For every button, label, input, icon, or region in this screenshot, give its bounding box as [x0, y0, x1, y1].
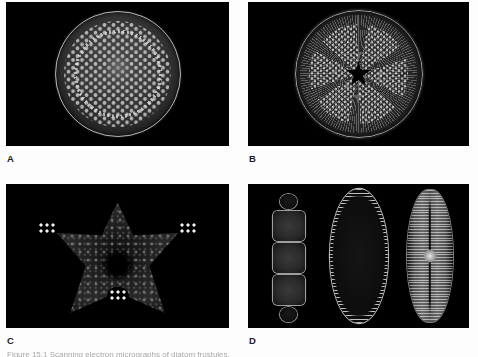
- panel-label-a: A: [7, 154, 14, 164]
- girdle-view-chain: [270, 193, 308, 319]
- panel-d-image: [248, 184, 469, 328]
- chain-cell-1: [273, 211, 305, 241]
- corner-cluster-right: [177, 220, 199, 237]
- centric-diatom-disc: [56, 12, 180, 136]
- chain-cell-3: [273, 275, 305, 305]
- chain-cell-2: [273, 243, 305, 273]
- panel-label-d: D: [249, 336, 256, 346]
- panel-a-image: [6, 2, 229, 146]
- corner-cluster-bottom: [107, 287, 129, 304]
- sectored-centric-diatom: [295, 10, 423, 138]
- lanceolate-striated-valve: [330, 189, 388, 323]
- panel-c-image: [6, 184, 229, 328]
- panel-label-c: C: [7, 336, 14, 346]
- figure-plate: A B C D: [0, 0, 478, 357]
- central-area: [103, 54, 133, 80]
- chain-cap-top: [280, 194, 297, 209]
- raphe-valve: [407, 190, 453, 322]
- figure-caption: Figure 15.1 Scanning electron micrograph…: [7, 350, 471, 357]
- valve-rim: [295, 10, 423, 138]
- panel-label-b: B: [249, 154, 256, 164]
- panel-b-image: [248, 2, 469, 146]
- central-nodule: [424, 250, 437, 263]
- chain-cap-bottom: [280, 307, 297, 322]
- corner-cluster-left: [36, 220, 58, 237]
- central-area: [101, 250, 135, 280]
